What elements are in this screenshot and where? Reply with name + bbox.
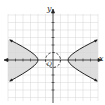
y-axis-label: y [47,5,52,13]
origin-label: O [47,61,52,67]
graph [0,0,105,105]
x-axis-label: x [99,55,104,63]
